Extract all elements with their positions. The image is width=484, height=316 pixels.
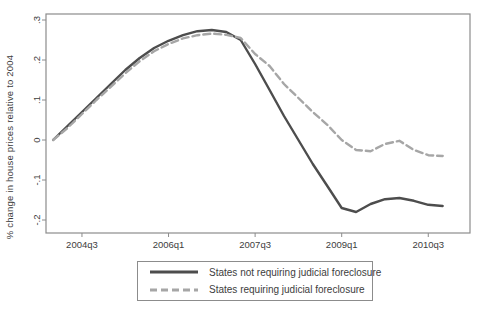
y-tick-label: .3 [31,16,42,24]
y-tick-label: 0 [31,137,42,142]
x-tick-label: 2006q1 [153,239,185,250]
y-axis-title: % change in house prices relative to 200… [4,55,15,240]
x-tick-label: 2010q3 [412,239,444,250]
dashed-line-key-icon [148,286,200,294]
y-tick-label: .1 [31,96,42,104]
legend-item-non-judicial: States not requiring judicial foreclosur… [148,265,372,280]
legend-label-non-judicial: States not requiring judicial foreclosur… [209,267,381,278]
y-tick-label: -.1 [31,174,42,185]
house-price-chart: .3.2.10-.1-.22004q32006q12007q32009q1201… [0,0,484,316]
x-tick-label: 2007q3 [239,239,271,250]
legend: States not requiring judicial foreclosur… [137,261,373,301]
x-tick-label: 2009q1 [326,239,358,250]
y-tick-label: -.2 [31,214,42,225]
y-tick-label: .2 [31,56,42,64]
legend-item-judicial: States requiring judicial foreclosure [148,283,372,298]
x-tick-label: 2004q3 [66,239,98,250]
legend-label-judicial: States requiring judicial foreclosure [209,284,365,295]
solid-line-key-icon [148,268,200,276]
